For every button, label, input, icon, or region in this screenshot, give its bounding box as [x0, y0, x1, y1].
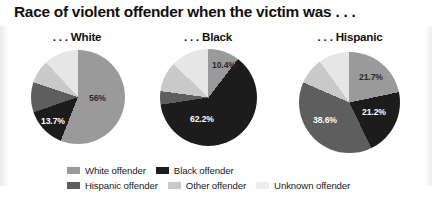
legend-row-2: Hispanic offender Other offender Unknown… [67, 178, 397, 193]
legend: White offender Black offender Hispanic o… [67, 163, 397, 193]
legend-swatch-unknown-offender [256, 182, 269, 189]
legend-item-black-offender: Black offender [156, 165, 234, 176]
slice-label-black-panel-white: 10.4% [212, 60, 236, 70]
legend-item-white-offender: White offender [67, 165, 146, 176]
legend-label-hispanic-offender: Hispanic offender [85, 180, 158, 191]
slice-label-white-panel-white: 56% [89, 93, 106, 103]
pie-chart-black-victim [160, 49, 257, 146]
legend-label-unknown-offender: Unknown offender [274, 180, 350, 191]
scan-edge-right [425, 26, 432, 186]
slice-label-white-panel-black: 13.7% [41, 116, 65, 126]
pie-chart-white-victim [31, 50, 125, 144]
pie-chart-hispanic-victim [299, 52, 400, 153]
pie-chart-figure: Race of violent offender when the victim… [0, 0, 432, 209]
slice-label-black-panel-black: 62.2% [190, 114, 214, 124]
legend-swatch-white-offender [67, 167, 80, 174]
chart-title: Race of violent offender when the victim… [14, 3, 424, 21]
panel-subtitle-hispanic: . . . Hispanic [288, 30, 412, 43]
slice-label-hispanic-panel-white: 21.7% [359, 72, 383, 82]
scan-edge-left [0, 26, 9, 186]
legend-swatch-black-offender [156, 167, 169, 174]
slice-label-hispanic-panel-hispanic: 38.6% [313, 115, 337, 125]
legend-row-1: White offender Black offender [67, 163, 397, 178]
legend-swatch-other-offender [168, 182, 181, 189]
legend-label-black-offender: Black offender [174, 165, 234, 176]
legend-item-other-offender: Other offender [168, 180, 246, 191]
legend-label-white-offender: White offender [85, 165, 146, 176]
slice-label-hispanic-panel-black: 21.2% [362, 107, 386, 117]
panel-subtitle-white: . . . White [21, 30, 133, 43]
legend-label-other-offender: Other offender [186, 180, 246, 191]
legend-item-unknown-offender: Unknown offender [256, 180, 350, 191]
legend-item-hispanic-offender: Hispanic offender [67, 180, 158, 191]
legend-swatch-hispanic-offender [67, 182, 80, 189]
panel-subtitle-black: . . . Black [152, 30, 264, 43]
